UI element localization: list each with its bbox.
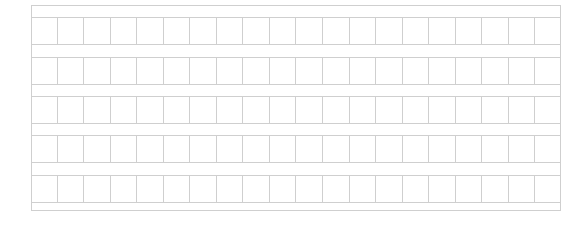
grid-cell [270, 97, 297, 123]
grid-row [31, 96, 561, 124]
grid-cell [403, 58, 430, 84]
grid-cell [164, 97, 191, 123]
grid-cell [323, 58, 350, 84]
grid-cell [323, 176, 350, 202]
grid-cell [350, 136, 377, 162]
grid-row [31, 17, 561, 45]
grid-cell [296, 136, 323, 162]
grid-cell [243, 97, 270, 123]
grid-cell [429, 136, 456, 162]
grid-cell [31, 176, 58, 202]
grid-cell [350, 58, 377, 84]
grid-cell [84, 176, 111, 202]
grid-cell [243, 176, 270, 202]
grid-cell [190, 136, 217, 162]
grid-cell [509, 176, 536, 202]
grid-cell [509, 136, 536, 162]
grid-cell [217, 58, 244, 84]
grid-cell [323, 18, 350, 44]
grid-cell [403, 176, 430, 202]
grid-cell [270, 176, 297, 202]
grid-cell [243, 58, 270, 84]
grid-cell [509, 18, 536, 44]
grid-cell [190, 18, 217, 44]
grid-cell [350, 18, 377, 44]
grid-cell [111, 58, 138, 84]
grid-cell [509, 97, 536, 123]
grid-cell [429, 176, 456, 202]
grid-cell [296, 58, 323, 84]
grid-cell [243, 18, 270, 44]
grid-cell [376, 97, 403, 123]
grid-cell [403, 18, 430, 44]
grid-cell [296, 97, 323, 123]
grid-cell [482, 136, 509, 162]
grid-cell [190, 58, 217, 84]
grid-cell [403, 97, 430, 123]
grid-cell [137, 176, 164, 202]
grid-cell [535, 176, 561, 202]
grid-cell [84, 58, 111, 84]
grid-cell [137, 58, 164, 84]
grid-cell [509, 58, 536, 84]
grid-cell [456, 18, 483, 44]
grid-cell [376, 18, 403, 44]
grid-cell [535, 136, 561, 162]
grid-cell [137, 18, 164, 44]
grid-cell [456, 176, 483, 202]
grid-cell [456, 136, 483, 162]
grid-cell [164, 176, 191, 202]
grid-cell [350, 176, 377, 202]
grid-cell [429, 18, 456, 44]
grid-cell [296, 176, 323, 202]
grid-cell [323, 97, 350, 123]
grid-row [31, 135, 561, 163]
grid-cell [217, 136, 244, 162]
grid-cell [376, 58, 403, 84]
grid-cell [350, 97, 377, 123]
grid-cell [482, 97, 509, 123]
grid-cell [270, 18, 297, 44]
grid-cell [190, 97, 217, 123]
grid-cell [270, 58, 297, 84]
grid-cell [243, 136, 270, 162]
grid-cell [58, 18, 85, 44]
grid-cell [456, 58, 483, 84]
grid-cell [31, 18, 58, 44]
grid-cell [217, 176, 244, 202]
grid-cell [84, 136, 111, 162]
grid-cell [31, 58, 58, 84]
grid-cell [535, 97, 561, 123]
grid-cell [164, 136, 191, 162]
grid-cell [137, 97, 164, 123]
grid-cell [31, 97, 58, 123]
grid-cell [31, 136, 58, 162]
grid-cell [111, 18, 138, 44]
grid-cell [535, 18, 561, 44]
grid-cell [111, 97, 138, 123]
grid-cell [482, 18, 509, 44]
grid-cell [403, 136, 430, 162]
grid-cell [482, 176, 509, 202]
grid-cell [190, 176, 217, 202]
grid-cell [58, 176, 85, 202]
grid-cell [58, 58, 85, 84]
grid-cell [535, 58, 561, 84]
grid-cell [429, 58, 456, 84]
grid-cell [111, 176, 138, 202]
grid-cell [376, 136, 403, 162]
grid-cell [296, 18, 323, 44]
grid-cell [270, 136, 297, 162]
grid-cell [456, 97, 483, 123]
grid-row [31, 175, 561, 203]
manuscript-grid-sheet [31, 5, 561, 211]
grid-row [31, 57, 561, 85]
grid-cell [164, 18, 191, 44]
grid-cell [482, 58, 509, 84]
grid-cell [137, 136, 164, 162]
grid-cell [58, 136, 85, 162]
grid-cell [164, 58, 191, 84]
grid-cell [58, 97, 85, 123]
grid-cell [217, 97, 244, 123]
grid-cell [323, 136, 350, 162]
